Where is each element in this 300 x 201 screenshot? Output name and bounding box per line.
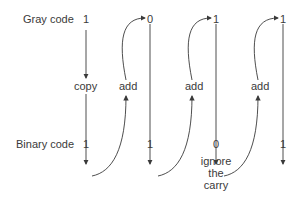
diagram-canvas [0,0,300,201]
binary-code-label: Binary code [16,138,74,150]
binary-bit-3: 1 [280,138,286,150]
add-curve-upper-1 [122,18,145,80]
op-add-2: add [185,80,203,92]
gray-code-label: Gray code [23,13,74,25]
note-line-2: the [196,167,236,179]
gray-bit-1: 0 [147,13,153,25]
note-line-3: carry [196,179,236,191]
add-curve-upper-2 [188,18,211,80]
op-add-3: add [251,80,269,92]
gray-bit-0: 1 [83,13,89,25]
add-curve-lower-1 [92,96,126,176]
add-curve-lower-2 [158,96,192,176]
op-copy: copy [74,80,97,92]
gray-bit-2: 1 [213,13,219,25]
gray-bit-3: 1 [280,13,286,25]
binary-bit-0: 1 [83,138,89,150]
note-line-1: ignore [196,155,236,167]
binary-bit-2: 0 [213,138,219,150]
add-curve-upper-3 [254,18,278,80]
binary-bit-1: 1 [147,138,153,150]
op-add-1: add [119,80,137,92]
